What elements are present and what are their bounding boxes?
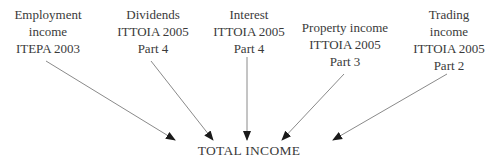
total-income-label: TOTAL INCOME: [0, 143, 498, 159]
source-line: Part 2: [400, 57, 498, 74]
arrow-dividends: [151, 61, 213, 140]
source-line: Part 4: [201, 40, 297, 57]
source-line: ITTOIA 2005: [201, 23, 297, 40]
source-line: ITTOIA 2005: [105, 23, 201, 40]
arrow-property: [282, 74, 344, 140]
source-trading: Trading income ITTOIA 2005 Part 2: [400, 6, 498, 74]
arrow-employment: [46, 61, 175, 140]
arrow-trading: [333, 74, 447, 140]
source-line: ITEPA 2003: [0, 40, 96, 57]
source-line: Property income: [290, 19, 400, 36]
source-line: Dividends: [105, 6, 201, 23]
source-property: Property income ITTOIA 2005 Part 3: [290, 19, 400, 70]
source-line: ITTOIA 2005: [290, 36, 400, 53]
source-line: Part 4: [105, 40, 201, 57]
source-line: ITTOIA 2005: [400, 40, 498, 57]
source-line: income: [0, 23, 96, 40]
source-dividends: Dividends ITTOIA 2005 Part 4: [105, 6, 201, 57]
source-line: Interest: [201, 6, 297, 23]
source-employment: Employment income ITEPA 2003: [0, 6, 96, 57]
source-line: Part 3: [290, 53, 400, 70]
source-line: Employment: [0, 6, 96, 23]
source-line: Trading: [400, 6, 498, 23]
source-line: income: [400, 23, 498, 40]
source-interest: Interest ITTOIA 2005 Part 4: [201, 6, 297, 57]
